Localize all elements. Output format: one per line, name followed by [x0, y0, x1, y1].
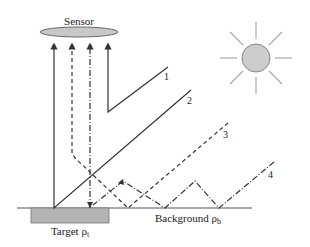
path-1 [108, 46, 168, 112]
path-4-label: 4 [268, 169, 273, 180]
path-4 [90, 46, 274, 208]
background-label: Background ρb [155, 212, 221, 226]
path-2-label: 2 [187, 95, 192, 106]
path-3-label: 3 [223, 129, 228, 140]
path-3 [72, 46, 228, 208]
sun-icon [220, 22, 292, 94]
target-label: Target ρt [51, 225, 90, 239]
sensor-label: Sensor [64, 15, 94, 27]
sensor-ellipse [40, 27, 118, 37]
path-1-label: 1 [164, 71, 169, 82]
target-patch [31, 208, 109, 223]
sensor: Sensor [40, 15, 118, 37]
remote-sensing-diagram: Sensor 1 2 3 4 Target ρt Bac [0, 0, 310, 247]
